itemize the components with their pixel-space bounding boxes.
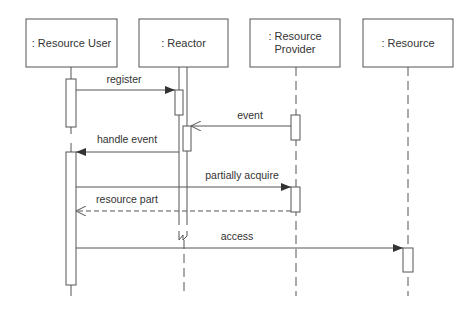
message-event: event [191,109,291,126]
participant-resource: : Resource [363,19,453,296]
activation-bar [291,115,300,140]
lifeline-break [179,235,187,240]
participant-label: : Resource [381,37,434,49]
sequence-diagram: : Resource User : Reactor : Resource Pro… [0,0,476,313]
activation-bar [403,248,413,272]
participant-reactor: : Reactor [139,19,228,296]
message-label: event [237,109,263,121]
message-label: partially acquire [205,169,279,181]
message-resource-part: resource part [76,193,291,211]
message-handle-event: handle event [76,133,179,152]
message-label: handle event [97,133,157,145]
participant-label: Provider [275,43,316,55]
activation-bar [66,152,76,285]
message-label: resource part [96,193,158,205]
activation-bar [66,79,76,127]
activation-bar [291,187,300,212]
participant-resource-user: : Resource User [26,19,117,296]
participant-resource-provider: : Resource Provider [250,19,340,296]
activation-bar [183,126,191,151]
message-access: access [76,230,403,248]
participant-label: : Resource [268,30,321,42]
message-label: register [106,73,142,85]
participant-label: : Reactor [161,37,206,49]
message-register: register [76,73,175,90]
message-partially-acquire: partially acquire [76,169,291,187]
activation-bar [175,90,183,115]
message-label: access [221,230,254,242]
participant-label: : Resource User [32,37,112,49]
